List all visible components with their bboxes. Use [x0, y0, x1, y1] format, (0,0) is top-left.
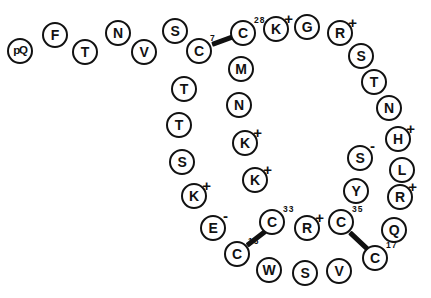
residue-r: R+: [294, 215, 320, 241]
residue-number: 17: [386, 241, 397, 250]
residue-label: Q: [389, 223, 400, 237]
charge-positive-icon: +: [263, 162, 272, 177]
residue-n: N: [105, 20, 131, 46]
residue-label: Y: [351, 184, 360, 198]
residue-label: T: [81, 45, 89, 59]
residue-label: K: [271, 22, 281, 36]
charge-negative-icon: -: [223, 208, 228, 223]
residue-s: S-: [347, 145, 373, 171]
residue-c-13: C: [224, 241, 250, 267]
residue-label: G: [302, 20, 313, 34]
residue-number: 35: [352, 205, 363, 214]
residue-label: S: [177, 155, 186, 169]
residue-number: 28: [254, 16, 265, 25]
residue-m: M: [228, 56, 254, 82]
charge-positive-icon: +: [408, 179, 417, 194]
residue-v: V: [326, 258, 352, 284]
residue-number: 7: [210, 34, 216, 43]
residue-c-35: C: [328, 209, 354, 235]
residue-label: N: [384, 101, 394, 115]
residue-t: T: [166, 112, 192, 138]
residue-label: T: [370, 75, 378, 89]
residue-number: 13: [248, 237, 259, 246]
peptide-structure-diagram: pQFTNVSC7C28K+GR+STNH+LR+QC17VSWC13E-K+S…: [0, 0, 431, 298]
residue-v: V: [131, 39, 157, 65]
residue-label: C: [232, 247, 242, 261]
charge-positive-icon: +: [253, 125, 262, 140]
residue-t: T: [171, 76, 197, 102]
residue-label: M: [235, 62, 246, 76]
residue-label: V: [334, 264, 343, 278]
residue-label: C: [267, 215, 277, 229]
charge-positive-icon: +: [284, 11, 293, 26]
residue-t: T: [72, 39, 98, 65]
residue-k: K+: [181, 183, 207, 209]
residue-label: C: [370, 251, 380, 265]
residue-n: N: [376, 95, 402, 121]
residue-label: R: [395, 190, 405, 204]
residue-label: C: [336, 215, 346, 229]
residue-s: S: [162, 18, 188, 44]
residue-r: R+: [387, 184, 413, 210]
residue-label: pQ: [13, 45, 27, 57]
residue-label: L: [398, 163, 406, 177]
residue-s: S: [169, 149, 195, 175]
residue-y: Y: [343, 178, 369, 204]
residue-c-28: C: [230, 20, 256, 46]
charge-positive-icon: +: [406, 121, 415, 136]
residue-g: G: [294, 14, 320, 40]
charge-positive-icon: +: [315, 210, 324, 225]
residue-label: R: [335, 26, 345, 40]
charge-positive-icon: +: [348, 15, 357, 30]
residue-label: R: [302, 221, 312, 235]
residue-s: S: [292, 260, 318, 286]
residue-label: C: [194, 44, 204, 58]
residue-label: E: [208, 221, 217, 235]
residue-c-17: C: [362, 245, 388, 271]
residue-k: K+: [263, 16, 289, 42]
residue-e: E-: [200, 215, 226, 241]
residue-label: N: [234, 98, 244, 112]
residue-pq: pQ: [7, 38, 33, 64]
residue-label: T: [180, 82, 188, 96]
residue-h: H+: [385, 126, 411, 152]
residue-k: K+: [242, 167, 268, 193]
residue-label: C: [238, 26, 248, 40]
residue-c-33: C: [259, 209, 285, 235]
residue-k: K+: [232, 130, 258, 156]
residue-label: V: [139, 45, 148, 59]
residue-t: T: [361, 69, 387, 95]
charge-positive-icon: +: [202, 178, 211, 193]
charge-negative-icon: -: [370, 138, 375, 153]
residue-label: S: [170, 24, 179, 38]
residue-number: 33: [283, 205, 294, 214]
residue-r: R+: [327, 20, 353, 46]
residue-label: N: [113, 26, 123, 40]
residue-f: F: [42, 22, 68, 48]
residue-label: F: [51, 28, 59, 42]
residue-n: N: [226, 92, 252, 118]
residue-s: S: [348, 43, 374, 69]
residue-label: W: [263, 263, 276, 277]
residue-label: T: [175, 118, 183, 132]
residue-label: S: [355, 151, 364, 165]
residue-label: K: [250, 173, 260, 187]
residue-label: S: [300, 266, 309, 280]
residue-label: H: [393, 132, 403, 146]
residue-c-7: C: [186, 38, 212, 64]
residue-label: K: [240, 136, 250, 150]
residue-label: S: [356, 49, 365, 63]
residue-w: W: [256, 257, 282, 283]
residue-label: K: [189, 189, 199, 203]
